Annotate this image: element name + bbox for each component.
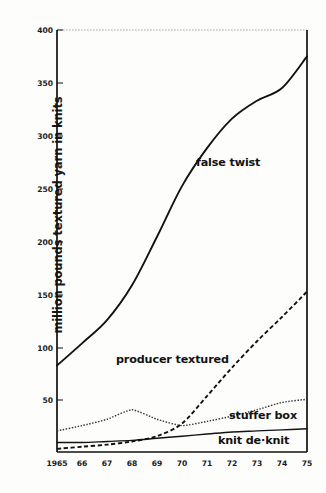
y-axis-ticks xyxy=(57,30,63,400)
y-tick-250: 250 xyxy=(37,185,53,194)
y-tick-100: 100 xyxy=(37,344,53,353)
series-label-stuffer-box: stuffer box xyxy=(229,409,298,422)
y-tick-400: 400 xyxy=(37,26,53,35)
series-line-false-twist xyxy=(57,56,307,365)
x-axis-tick-labels: 1965 66 67 68 69 70 71 72 73 74 75 xyxy=(46,459,312,468)
x-tick-66: 66 xyxy=(77,459,88,468)
x-tick-70: 70 xyxy=(177,459,188,468)
chart-figure: million pounds textured yarn in knits 40… xyxy=(0,0,326,493)
y-axis-tick-labels: 400 350 300 250 200 150 100 50 xyxy=(37,26,53,405)
y-tick-350: 350 xyxy=(37,79,53,88)
series-label-producer-textured: producer textured xyxy=(116,353,229,366)
x-tick-74: 74 xyxy=(277,459,288,468)
y-tick-200: 200 xyxy=(37,238,53,247)
x-tick-68: 68 xyxy=(127,459,138,468)
line-chart-plot: 400 350 300 250 200 150 100 50 1965 66 6… xyxy=(0,0,326,493)
x-tick-67: 67 xyxy=(102,459,113,468)
series-label-knit-de-knit: knit de·knit xyxy=(218,434,290,447)
y-tick-150: 150 xyxy=(37,291,53,300)
series-line-producer-textured xyxy=(57,292,307,449)
x-tick-69: 69 xyxy=(152,459,163,468)
x-tick-73: 73 xyxy=(252,459,263,468)
series-label-false-twist: false twist xyxy=(196,156,261,169)
x-tick-72: 72 xyxy=(227,459,238,468)
x-tick-75: 75 xyxy=(302,459,313,468)
y-tick-300: 300 xyxy=(37,132,53,141)
y-tick-50: 50 xyxy=(42,396,53,405)
x-tick-71: 71 xyxy=(202,459,213,468)
x-tick-1965: 1965 xyxy=(46,459,67,468)
